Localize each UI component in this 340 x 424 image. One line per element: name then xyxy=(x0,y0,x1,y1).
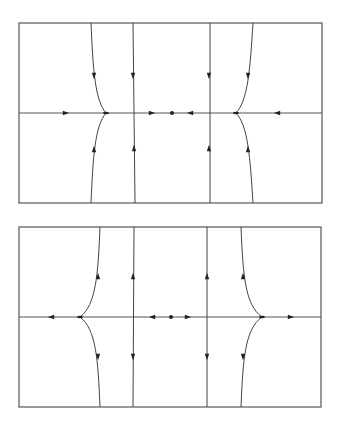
phase-portrait-figure xyxy=(0,0,340,424)
junction-point xyxy=(259,316,265,318)
arrow-down-icon xyxy=(207,73,211,79)
junction-point xyxy=(103,112,109,114)
trajectory-right-curve-lower xyxy=(236,113,253,203)
trajectory-left-curve-lower xyxy=(80,317,100,407)
arrow-up-icon xyxy=(205,273,209,279)
arrow-left-icon xyxy=(187,111,193,115)
arrow-down-icon xyxy=(246,73,250,79)
trajectory-left-curve-upper xyxy=(80,227,100,317)
trajectory-left-curve-lower xyxy=(91,113,106,203)
trajectory-right-curve-upper xyxy=(236,23,253,113)
arrow-right-icon xyxy=(288,315,294,319)
arrow-down-icon xyxy=(131,73,135,79)
arrow-up-icon xyxy=(207,145,211,151)
junction-point xyxy=(77,316,83,318)
top-phase-portrait xyxy=(19,23,322,203)
arrow-left-icon xyxy=(48,315,54,319)
arrow-right-icon xyxy=(149,111,155,115)
arrow-up-icon xyxy=(246,146,250,152)
fixed-point-dot xyxy=(170,111,174,115)
arrow-down-icon xyxy=(131,354,135,360)
phase-portrait-svg xyxy=(0,0,340,424)
trajectory-left-vertical xyxy=(133,227,134,407)
arrow-right-icon xyxy=(63,111,69,115)
junction-point xyxy=(233,112,239,114)
arrow-left-icon xyxy=(274,111,280,115)
trajectory-right-curve-upper xyxy=(241,227,262,317)
trajectory-left-curve-upper xyxy=(91,23,106,113)
arrow-up-icon xyxy=(131,273,135,279)
arrow-left-icon xyxy=(149,315,155,319)
arrow-right-icon xyxy=(185,315,191,319)
fixed-point-dot xyxy=(169,315,173,319)
arrow-down-icon xyxy=(92,73,96,79)
arrow-up-icon xyxy=(132,145,136,151)
bottom-phase-portrait xyxy=(19,227,321,407)
trajectory-right-curve-lower xyxy=(241,317,262,407)
arrow-up-icon xyxy=(92,146,96,152)
arrow-down-icon xyxy=(205,354,209,360)
